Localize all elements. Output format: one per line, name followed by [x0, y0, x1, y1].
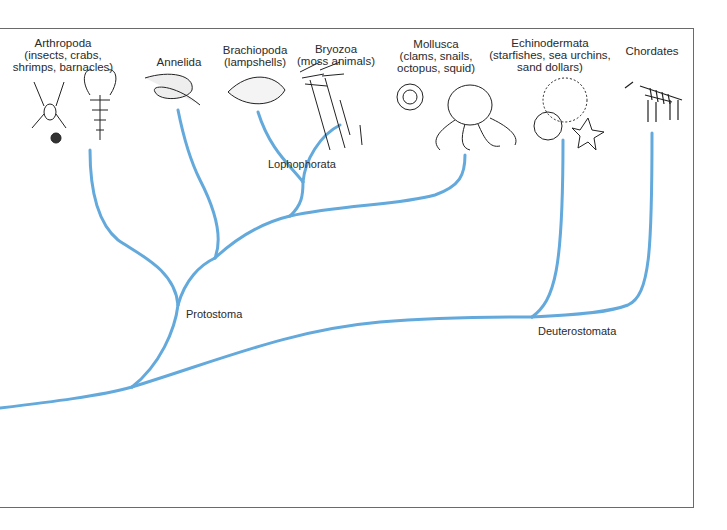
taxon-label-brachiopoda: Brachiopoda (lampshells): [223, 44, 288, 68]
branch-upper-protostome: [178, 258, 215, 305]
taxon-label-arthropoda: Arthropoda (insects, crabs, shrimps, bar…: [13, 37, 113, 73]
branch-root: [0, 387, 132, 408]
branch-lophophorata: [290, 182, 303, 216]
taxon-label-echinodermata: Echinodermata (starfishes, sea urchins, …: [489, 37, 610, 73]
taxon-label-bryozoa: Bryozoa (moss animals): [297, 43, 375, 67]
phylogenetic-tree: [0, 0, 727, 530]
chordates-illustration: [625, 82, 682, 122]
bryozoa-illustration: [300, 62, 362, 150]
branch-bryozoa: [303, 125, 340, 182]
branch-annelida: [178, 110, 218, 258]
annelida-illustration: [145, 74, 200, 105]
clade-label-deuterostomata: Deuterostomata: [538, 325, 616, 337]
branch-arthropoda: [90, 150, 178, 305]
branch-brachiopoda: [258, 112, 303, 182]
branch-deuterostomata: [132, 317, 532, 387]
mollusca-illustration: [397, 84, 516, 150]
clade-label-protostoma: Protostoma: [186, 308, 242, 320]
branch-echinodermata: [532, 140, 563, 317]
taxon-label-annelida: Annelida: [157, 56, 202, 68]
branch-lophotrochozoa: [215, 216, 290, 258]
taxon-label-mollusca: Mollusca (clams, snails, octopus, squid): [397, 38, 475, 74]
taxon-label-chordates: Chordates: [625, 45, 678, 57]
brachiopoda-illustration: [228, 77, 285, 104]
echinodermata-illustration: [534, 78, 604, 150]
arthropoda-illustration: [32, 70, 116, 143]
clade-label-lophophorata: Lophophorata: [268, 158, 336, 170]
